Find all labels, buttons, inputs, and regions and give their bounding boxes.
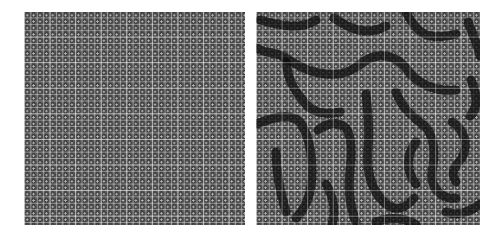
- grid-lines: [24, 12, 245, 225]
- right-panel-labyrinth-pattern: [256, 12, 480, 225]
- grid-lines: [256, 12, 480, 225]
- left-panel-uniform-lattice: [24, 12, 245, 225]
